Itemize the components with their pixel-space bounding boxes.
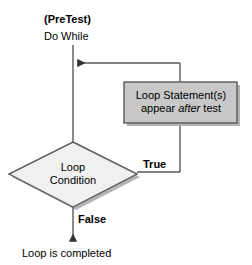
process-box-text: Loop Statement(s) appear after test xyxy=(126,89,236,115)
false-branch-label: False xyxy=(78,214,106,225)
true-branch-label: True xyxy=(143,159,166,170)
process-text-emphasis: after xyxy=(178,102,200,114)
process-text-line2: appear after test xyxy=(126,102,236,115)
pretest-label: (PreTest) xyxy=(44,14,91,25)
loop-completed-label: Loop is completed xyxy=(22,248,111,259)
flowchart-canvas: (PreTest) Do While Loop Statement(s) app… xyxy=(0,0,252,265)
decision-text-line2: Condition xyxy=(26,174,120,187)
process-text-line2-after: test xyxy=(200,102,221,114)
decision-diamond-text: Loop Condition xyxy=(26,161,120,187)
flowchart-graphics xyxy=(0,0,252,265)
process-text-line2-before: appear xyxy=(141,102,178,114)
decision-text-line1: Loop xyxy=(26,161,120,174)
do-while-label: Do While xyxy=(44,31,89,42)
process-text-line1: Loop Statement(s) xyxy=(126,89,236,102)
